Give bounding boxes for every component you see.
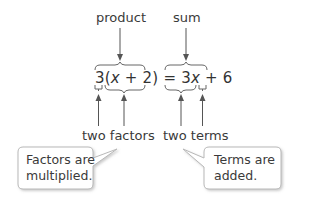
callout-left-line1: Factors are <box>26 152 95 168</box>
eq-left-const: 2 <box>143 69 153 87</box>
eq-right-const: 6 <box>223 69 233 87</box>
eq-right-var: x <box>191 69 200 87</box>
eq-equals: = <box>158 69 181 87</box>
sum-arrow-icon <box>183 28 189 61</box>
product-label: product <box>96 10 146 25</box>
factor-3-arrow-icon <box>96 94 102 126</box>
callout-right-line2: added. <box>214 168 257 184</box>
callout-right-line1: Terms are <box>214 152 275 168</box>
callout-left-line2: multiplied. <box>26 168 92 184</box>
eq-left-coef: 3 <box>95 69 105 87</box>
term-6-arrow-icon <box>200 94 206 126</box>
term-3x-arrow-icon <box>178 94 184 126</box>
factor-binomial-arrow-icon <box>121 94 127 126</box>
eq-left-var: x <box>111 69 120 87</box>
sum-label: sum <box>173 10 201 25</box>
two-terms-label: two terms <box>163 128 228 143</box>
eq-right-plus: + <box>200 69 223 87</box>
equation: 3(x + 2) = 3x + 6 <box>95 69 232 87</box>
product-arrow-icon <box>117 28 123 61</box>
two-factors-label: two factors <box>82 128 155 143</box>
eq-left-plus: + <box>120 69 143 87</box>
eq-right-coef: 3 <box>181 69 191 87</box>
